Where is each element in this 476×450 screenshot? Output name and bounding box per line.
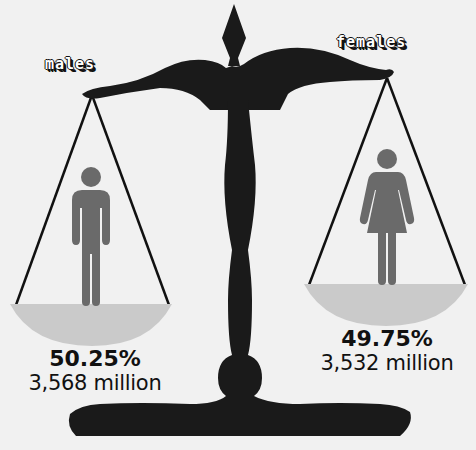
right-pan <box>304 284 468 326</box>
male-figure-icon <box>72 167 110 306</box>
males-label: males <box>45 55 95 73</box>
males-count: 3,568 million <box>0 371 190 395</box>
females-count: 3,532 million <box>298 351 476 375</box>
females-stat: 49.75% 3,532 million <box>298 327 476 375</box>
males-stat: 50.25% 3,568 million <box>0 347 190 395</box>
balance-scale-infographic: males females 50.25% 3,568 million 49.75… <box>0 0 476 450</box>
scale-finial <box>222 4 246 66</box>
females-percent: 49.75% <box>298 327 476 351</box>
females-label: females <box>336 33 406 51</box>
males-percent: 50.25% <box>0 347 190 371</box>
left-pan <box>10 304 172 346</box>
female-figure-icon <box>360 149 414 285</box>
